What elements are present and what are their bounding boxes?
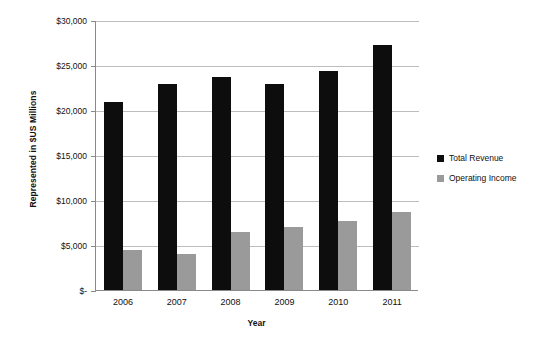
x-axis-tick-label: 2011 bbox=[365, 297, 419, 307]
gray-square-icon bbox=[437, 175, 444, 182]
bar-operating-income-2008[interactable] bbox=[231, 232, 250, 291]
y-axis-tick-label: $10,000 bbox=[56, 196, 87, 206]
legend-label: Total Revenue bbox=[449, 153, 503, 163]
legend-item[interactable]: Total Revenue bbox=[437, 153, 517, 163]
bar-group: 2010 bbox=[311, 20, 365, 290]
bar-total-revenue-2009[interactable] bbox=[265, 84, 284, 290]
y-axis-tick-label: $5,000 bbox=[61, 241, 87, 251]
bar-group: 2006 bbox=[96, 20, 150, 290]
bar-groups: 200620072008200920102011 bbox=[96, 20, 419, 290]
y-axis-tick-label: $- bbox=[79, 286, 87, 296]
bar-chart: Represented in $US Millions $-$5,000$10,… bbox=[0, 0, 551, 340]
y-axis-tick bbox=[91, 291, 96, 292]
legend-label: Operating Income bbox=[449, 173, 517, 183]
x-axis-title: Year bbox=[95, 318, 418, 328]
bar-total-revenue-2010[interactable] bbox=[319, 71, 338, 290]
plot-area: $-$5,000$10,000$15,000$20,000$25,000$30,… bbox=[95, 21, 418, 291]
bar-operating-income-2011[interactable] bbox=[392, 212, 411, 290]
y-axis-tick-label: $25,000 bbox=[56, 61, 87, 71]
y-axis-title: Represented in $US Millions bbox=[28, 54, 38, 244]
x-axis-tick-label: 2006 bbox=[96, 297, 150, 307]
bar-total-revenue-2006[interactable] bbox=[104, 102, 123, 290]
chart-legend: Total RevenueOperating Income bbox=[437, 153, 517, 193]
bar-group: 2011 bbox=[365, 20, 419, 290]
bar-operating-income-2007[interactable] bbox=[177, 254, 196, 290]
black-square-icon bbox=[437, 155, 444, 162]
bar-total-revenue-2008[interactable] bbox=[212, 77, 231, 290]
bar-group: 2009 bbox=[257, 20, 311, 290]
x-axis-tick-label: 2008 bbox=[204, 297, 258, 307]
x-axis-tick-label: 2009 bbox=[257, 297, 311, 307]
bar-total-revenue-2007[interactable] bbox=[158, 84, 177, 290]
bar-operating-income-2009[interactable] bbox=[284, 227, 303, 290]
x-axis-tick-label: 2010 bbox=[311, 297, 365, 307]
bar-group: 2007 bbox=[150, 20, 204, 290]
y-axis-tick-label: $15,000 bbox=[56, 151, 87, 161]
y-axis-tick-label: $20,000 bbox=[56, 106, 87, 116]
bar-group: 2008 bbox=[204, 20, 258, 290]
bar-operating-income-2010[interactable] bbox=[338, 221, 357, 290]
x-axis-tick-label: 2007 bbox=[150, 297, 204, 307]
bar-total-revenue-2011[interactable] bbox=[373, 45, 392, 290]
y-axis-tick-label: $30,000 bbox=[56, 16, 87, 26]
legend-item[interactable]: Operating Income bbox=[437, 173, 517, 183]
bar-operating-income-2006[interactable] bbox=[123, 250, 142, 290]
